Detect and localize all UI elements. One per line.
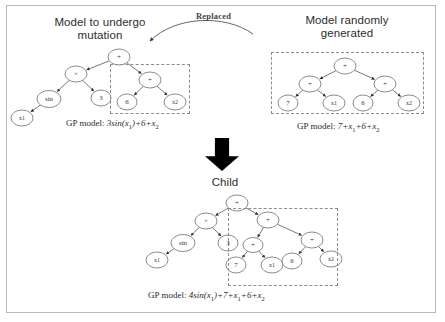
tree-node-label-p-sin: sin <box>37 90 61 107</box>
tree-node-label-p-x2: x2 <box>164 94 186 110</box>
tree-node-label-r-x1: x1 <box>323 95 345 111</box>
tree-node-label-c-7: 7 <box>226 257 246 273</box>
genetic-programming-mutation-figure: Model to undergo mutation Model randomly… <box>0 0 445 322</box>
tree-node-label-c-x2: x2 <box>320 251 342 267</box>
tree-node-label-r-6: 6 <box>353 95 373 111</box>
tree-node-label-r-root: + <box>334 58 356 74</box>
tree-node-label-c-6: 6 <box>282 253 302 269</box>
tree-node-label-c-plusR: + <box>301 232 323 248</box>
tree-node-label-c-3: 3 <box>218 235 238 251</box>
tree-node-label-c-plus: + <box>257 212 279 228</box>
tree-node-label-p-mul: × <box>65 66 87 82</box>
tree-node-label-r-7: 7 <box>278 95 298 111</box>
tree-node-label-p-3: 3 <box>91 90 111 106</box>
tree-node-label-p-root: + <box>108 49 130 65</box>
tree-node-label-r-plusR: + <box>374 76 396 92</box>
tree-node-label-c-root: + <box>226 195 248 211</box>
tree-node-label-p-6: 6 <box>117 94 137 110</box>
tree-node-label-p-plus: + <box>139 72 161 88</box>
tree-node-label-c-plusL: + <box>243 237 263 252</box>
tree-node-label-r-plusL: + <box>299 76 321 92</box>
tree-node-label-c-mul: × <box>195 213 217 229</box>
tree-node-label-r-x2: x2 <box>398 95 420 111</box>
tree-node-label-c-x1a: x1 <box>146 252 168 268</box>
tree-node-label-c-sin: sin <box>171 234 195 251</box>
tree-node-labels: +×sinx13+6x2++7x1+6x2+×sinx13++7x1+6x2 <box>0 0 445 322</box>
tree-node-label-p-x1: x1 <box>11 110 33 126</box>
tree-node-label-c-x1b: x1 <box>261 257 283 273</box>
